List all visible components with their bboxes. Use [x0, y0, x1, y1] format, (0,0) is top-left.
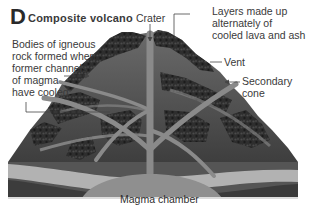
- figure-letter: D: [10, 6, 26, 28]
- figure-title: Composite volcano: [28, 12, 133, 24]
- layers-leader: [174, 14, 190, 36]
- label-magma-chamber: Magma chamber: [120, 193, 199, 205]
- label-vent: Vent: [224, 56, 245, 68]
- label-crater: Crater: [136, 12, 165, 24]
